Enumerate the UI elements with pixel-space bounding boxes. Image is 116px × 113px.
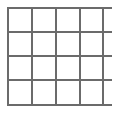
grid-svg: [0, 0, 116, 113]
screenshot-root: [0, 0, 116, 113]
grid-figure: [0, 0, 116, 113]
